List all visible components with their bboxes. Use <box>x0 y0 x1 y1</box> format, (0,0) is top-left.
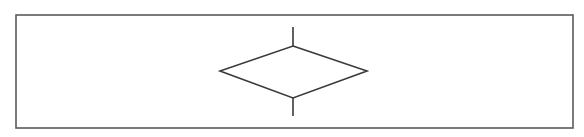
flowchart-diagram <box>0 0 584 137</box>
